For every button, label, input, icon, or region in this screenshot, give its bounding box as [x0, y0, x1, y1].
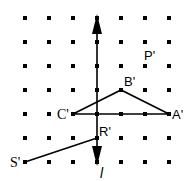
grid-dot	[47, 136, 51, 140]
arrow-up-icon	[92, 14, 102, 34]
grid-dot	[23, 112, 27, 116]
reflection-diagram: l A' B' C' P' R' S'	[0, 0, 192, 181]
grid-dot	[143, 16, 147, 20]
grid-dot	[143, 64, 147, 68]
grid-dot	[143, 40, 147, 44]
grid-dot	[47, 64, 51, 68]
grid-dot	[71, 16, 75, 20]
grid-dot	[71, 88, 75, 92]
label-s-prime: S'	[10, 155, 20, 170]
grid-dot	[23, 136, 27, 140]
grid-dot	[167, 40, 171, 44]
grid-dot	[167, 160, 171, 164]
grid-dot	[119, 64, 123, 68]
label-c-prime: C'	[57, 107, 69, 122]
label-r-prime: R'	[99, 124, 111, 139]
grid-dot	[47, 40, 51, 44]
mirror-line-label: l	[100, 165, 104, 181]
label-p-prime: P'	[144, 48, 155, 63]
grid-dot	[143, 88, 147, 92]
triangle-abc-image	[73, 90, 169, 114]
label-a-prime: A'	[172, 107, 183, 122]
grid-dot	[23, 16, 27, 20]
grid-dot	[47, 88, 51, 92]
mirror-line-l: l	[92, 14, 104, 181]
grid-dot	[71, 136, 75, 140]
grid-dot	[119, 16, 123, 20]
grid-dot	[23, 40, 27, 44]
grid-dot	[71, 160, 75, 164]
grid-dot	[119, 40, 123, 44]
grid-dot	[167, 16, 171, 20]
grid-dot	[119, 136, 123, 140]
label-b-prime: B'	[124, 74, 135, 89]
grid-dot	[23, 88, 27, 92]
grid-dot	[23, 64, 27, 68]
grid-dot	[167, 88, 171, 92]
grid-dot	[119, 160, 123, 164]
arrow-down-icon	[92, 146, 102, 166]
grid-dot	[143, 160, 147, 164]
grid-dot	[47, 160, 51, 164]
grid-dot	[47, 16, 51, 20]
grid-dot	[167, 64, 171, 68]
grid-dot	[47, 112, 51, 116]
grid-dot	[71, 64, 75, 68]
grid-dot	[167, 136, 171, 140]
grid-dot	[143, 136, 147, 140]
segment-rs-image	[25, 138, 97, 162]
grid-dot	[71, 40, 75, 44]
